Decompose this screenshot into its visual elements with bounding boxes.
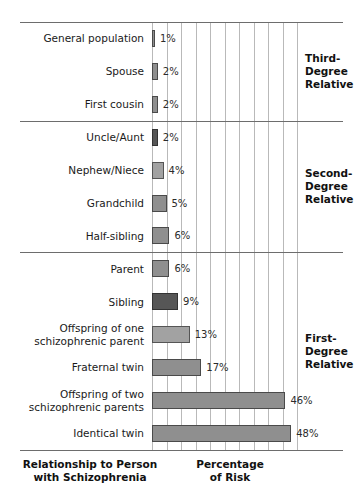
bar-container: 46% [152,384,343,417]
bar-value-label: 13% [195,329,217,340]
bar-row: Half-sibling6% [20,220,343,253]
bar-value-label: 1% [160,33,176,44]
bar-category-label: Uncle/Aunt [20,131,152,144]
bar-category-label: Parent [20,263,152,276]
bar-row: Nephew/Niece4% [20,154,343,187]
bar [152,293,178,310]
bar [152,260,169,277]
bar-category-label: General population [20,32,152,45]
bar [152,63,158,80]
bar-row: Sibling9% [20,285,343,318]
group-label-first-degree: First- Degree Relative [305,332,363,371]
bar-category-label: Half-sibling [20,230,152,243]
bar-value-label: 48% [296,428,318,439]
bar-value-label: 17% [206,362,228,373]
bar-row: Offspring of one schizophrenic parent13% [20,318,343,351]
bar-row: Grandchild5% [20,187,343,220]
bar-value-label: 2% [163,66,179,77]
bar-category-label: Fraternal twin [20,361,152,374]
bar-value-label: 2% [163,132,179,143]
bar-value-label: 6% [174,263,190,274]
bar [152,162,164,179]
bar-category-label: First cousin [20,98,152,111]
x-axis-caption: Percentage of Risk [170,458,290,484]
bar-row: Offspring of two schizophrenic parents46… [20,384,343,417]
bar-value-label: 6% [174,230,190,241]
bar [152,425,291,442]
bar-container: 2% [152,88,343,121]
bar-row: Identical twin48% [20,417,343,450]
bar-row: First cousin2% [20,88,343,121]
bar-rows: General population1%Spouse2%First cousin… [20,22,343,450]
bar [152,359,201,376]
bar-category-label: Grandchild [20,197,152,210]
bar [152,326,190,343]
y-axis-caption: Relationship to Person with Schizophreni… [14,458,166,484]
bar-value-label: 4% [169,165,185,176]
bar-row: Parent6% [20,252,343,285]
bar-category-label: Offspring of one schizophrenic parent [20,322,152,347]
bar-category-label: Nephew/Niece [20,164,152,177]
chart-baseline-rule [20,450,343,451]
bar [152,392,285,409]
bar-container: 48% [152,417,343,450]
bar-category-label: Sibling [20,296,152,309]
bar-container: 9% [152,285,343,318]
bar-row: Spouse2% [20,55,343,88]
plot-area: General population1%Spouse2%First cousin… [20,22,343,450]
bar-value-label: 5% [172,198,188,209]
bar-container: 6% [152,252,343,285]
bar-value-label: 9% [183,296,199,307]
bar-container: 2% [152,121,343,154]
bar [152,30,155,47]
bar-category-label: Spouse [20,65,152,78]
group-label-third-degree: Third- Degree Relative [305,52,363,91]
group-label-second-degree: Second- Degree Relative [305,167,363,206]
bar-container: 6% [152,220,343,253]
bar [152,129,158,146]
bar [152,195,167,212]
bar-value-label: 46% [290,395,312,406]
bar-row: Fraternal twin17% [20,351,343,384]
bar-category-label: Identical twin [20,427,152,440]
bar-row: Uncle/Aunt2% [20,121,343,154]
bar [152,227,169,244]
bar-category-label: Offspring of two schizophrenic parents [20,388,152,413]
bar-value-label: 2% [163,99,179,110]
bar-row: General population1% [20,22,343,55]
bar-container: 1% [152,22,343,55]
risk-of-schizophrenia-bar-chart: General population1%Spouse2%First cousin… [0,0,363,503]
bar [152,96,158,113]
